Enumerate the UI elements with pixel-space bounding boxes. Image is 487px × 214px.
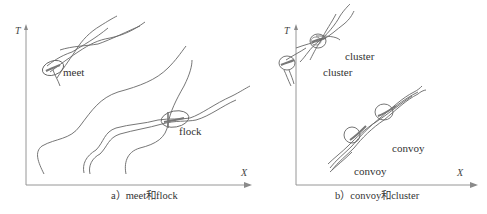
panel-b-x-axis-label: X <box>457 168 463 178</box>
cluster-top-label: cluster <box>345 51 374 62</box>
panel-a-caption: a）meet和flock <box>111 191 178 202</box>
diagram-canvas <box>0 0 487 214</box>
meet-label: meet <box>63 67 84 78</box>
convoy-top-label: convoy <box>392 143 424 154</box>
panel-b-caption: b）convoy和cluster <box>335 191 419 202</box>
flock-label: flock <box>179 126 202 137</box>
panel-b-x-arrow <box>470 182 478 188</box>
convoy-trajectories <box>328 86 426 172</box>
panel-b-axes <box>212 24 476 187</box>
convoy-bottom-label: convoy <box>354 166 386 177</box>
panel-a-x-axis-label: X <box>241 168 247 178</box>
meet-trajectories <box>40 16 145 86</box>
panel-a-x-arrow <box>244 182 252 188</box>
panel-b-y-axis-label: T <box>284 26 290 36</box>
panel-a-y-axis-label: T <box>15 26 21 36</box>
cluster-bottom-label: cluster <box>323 67 352 78</box>
